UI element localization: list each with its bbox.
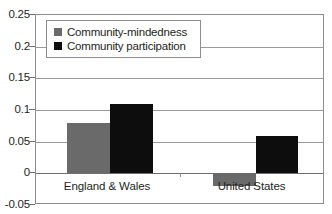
legend-label-community-participation: Community participation xyxy=(67,40,186,52)
legend: Community-mindedness Community participa… xyxy=(46,20,201,58)
bar-chart: 0.25 0.2 0.15 0.1 0.05 0 -0.05 xyxy=(0,0,332,214)
bar-england-wales-community-mindedness xyxy=(67,123,110,174)
y-tick-label-4: 0.05 xyxy=(8,135,30,147)
bar-united-states-community-participation xyxy=(256,136,298,173)
y-axis: 0.25 0.2 0.15 0.1 0.05 0 -0.05 xyxy=(0,0,32,214)
x-axis-label-united-states: United States xyxy=(179,180,324,192)
y-tick-label-0: 0.25 xyxy=(8,8,30,20)
y-tick-mark-6 xyxy=(29,204,35,205)
gray-swatch-icon xyxy=(54,28,62,36)
bar-england-wales-community-participation xyxy=(110,104,153,173)
black-swatch-icon xyxy=(54,42,62,50)
y-tick-label-1: 0.2 xyxy=(15,40,30,52)
x-axis-label-england-wales: England & Wales xyxy=(35,180,179,192)
plot-area: Community-mindedness Community participa… xyxy=(35,14,324,204)
y-tick-label-6: -0.05 xyxy=(5,198,30,210)
y-tick-label-3: 0.1 xyxy=(15,103,30,115)
legend-item-community-participation: Community participation xyxy=(54,39,194,53)
legend-label-community-mindedness: Community-mindedness xyxy=(67,26,187,38)
y-tick-label-2: 0.15 xyxy=(8,71,30,83)
legend-item-community-mindedness: Community-mindedness xyxy=(54,25,194,39)
